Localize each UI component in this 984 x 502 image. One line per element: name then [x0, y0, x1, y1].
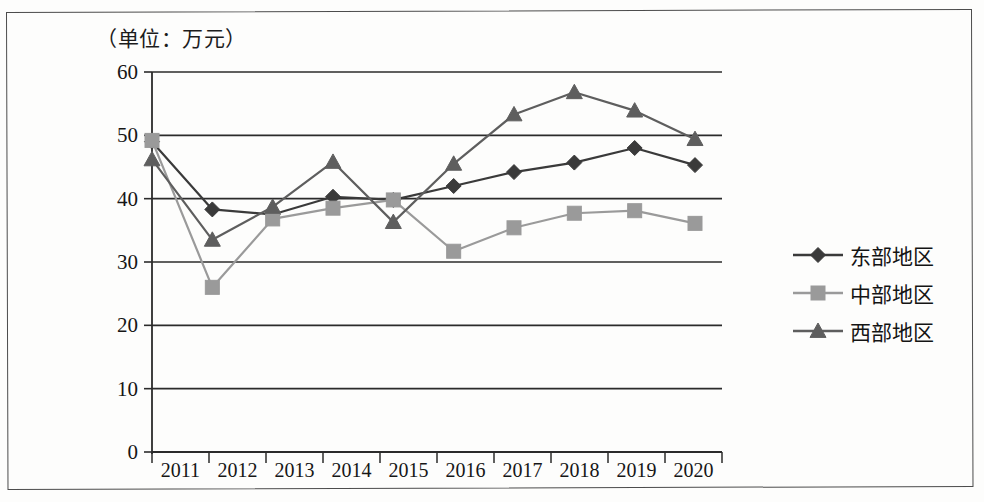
- data-point-square: [266, 212, 280, 226]
- legend-label: 东部地区: [850, 240, 934, 270]
- series-1: [145, 134, 703, 222]
- y-tick-label: 40: [92, 186, 138, 211]
- series-line: [152, 142, 695, 215]
- gridlines: [152, 72, 722, 452]
- y-tick-label: 30: [92, 250, 138, 275]
- data-point-square: [386, 193, 400, 207]
- data-point-square: [811, 286, 825, 300]
- triangle-marker-icon: [792, 321, 844, 341]
- y-tick-label: 20: [92, 313, 138, 338]
- diamond-marker-icon: [792, 245, 844, 265]
- data-point-diamond: [507, 165, 522, 180]
- data-point-triangle: [687, 131, 703, 145]
- data-point-diamond: [688, 158, 703, 173]
- y-tick-label: 10: [92, 376, 138, 401]
- legend-label: 中部地区: [850, 278, 934, 308]
- square-marker-icon: [792, 283, 844, 303]
- x-tick-label-2020: 2020: [659, 459, 729, 482]
- series-line: [152, 140, 695, 287]
- data-point-square: [326, 201, 340, 215]
- series-3: [144, 84, 703, 246]
- series-layer: [144, 84, 703, 294]
- y-tick-label: 60: [92, 60, 138, 85]
- series-line: [152, 92, 695, 240]
- data-point-square: [205, 280, 219, 294]
- data-point-square: [507, 221, 521, 235]
- legend-item-3[interactable]: 西部地区: [792, 312, 962, 350]
- data-point-triangle: [265, 199, 281, 213]
- series-2: [145, 133, 702, 294]
- y-axis-ticks: [144, 72, 152, 452]
- data-point-square: [628, 204, 642, 218]
- data-point-triangle: [325, 154, 341, 168]
- chart-page: （单位：万元） 0102030405060 201120122013201420…: [0, 0, 984, 502]
- data-point-square: [567, 206, 581, 220]
- legend-label: 西部地区: [850, 316, 934, 346]
- legend-item-1[interactable]: 东部地区: [792, 236, 962, 274]
- data-point-triangle: [506, 106, 522, 120]
- chart-legend: 东部地区中部地区西部地区: [792, 236, 962, 350]
- data-point-diamond: [627, 141, 642, 156]
- legend-item-2[interactable]: 中部地区: [792, 274, 962, 312]
- data-point-square: [145, 133, 159, 147]
- data-point-square: [688, 216, 702, 230]
- y-tick-label: 50: [92, 123, 138, 148]
- y-tick-label: 0: [92, 440, 138, 465]
- data-point-diamond: [567, 155, 582, 170]
- data-point-diamond: [446, 179, 461, 194]
- data-point-square: [447, 244, 461, 258]
- data-point-diamond: [811, 248, 826, 263]
- data-point-triangle: [566, 84, 582, 98]
